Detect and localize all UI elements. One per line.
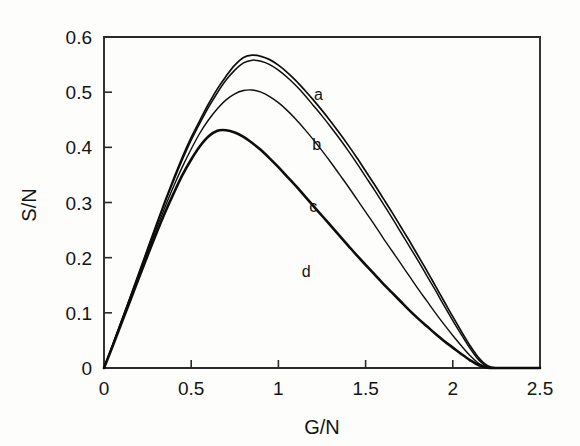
y-tick-label: 0.3: [66, 193, 92, 214]
y-tick-label: 0.4: [66, 137, 93, 158]
curve-label-b: b: [312, 136, 321, 153]
x-axis-title: G/N: [304, 416, 340, 438]
x-tick-label: 1.5: [352, 378, 378, 399]
curve-label-a: a: [314, 86, 323, 103]
y-tick-label: 0: [81, 358, 92, 379]
x-tick-label: 2: [448, 378, 459, 399]
x-tick-label: 0: [99, 378, 110, 399]
y-tick-label: 0.6: [66, 27, 92, 48]
y-tick-label: 0.1: [66, 303, 92, 324]
plot-background: [0, 0, 580, 446]
curve-label-c: c: [309, 198, 317, 215]
y-tick-label: 0.2: [66, 248, 92, 269]
y-tick-label: 0.5: [66, 82, 92, 103]
chart-figure: 00.511.522.5 00.10.20.30.40.50.6 abcd G/…: [0, 0, 580, 446]
y-axis-title: S/N: [18, 188, 40, 221]
curve-label-d: d: [302, 263, 311, 280]
x-tick-label: 0.5: [178, 378, 204, 399]
chart-svg: 00.511.522.5 00.10.20.30.40.50.6 abcd G/…: [0, 0, 580, 446]
x-tick-label: 2.5: [527, 378, 553, 399]
x-tick-label: 1: [273, 378, 284, 399]
